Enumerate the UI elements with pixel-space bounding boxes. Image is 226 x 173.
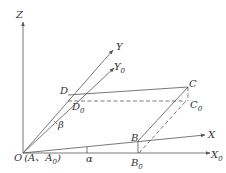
y-axis-label: Y: [116, 41, 124, 52]
point-c0-label: C0: [190, 99, 203, 113]
point-c-label: C: [189, 78, 197, 89]
point-b-label: B: [130, 132, 138, 143]
point-b0-label: B0: [130, 157, 143, 171]
x-axis: [23, 135, 205, 153]
origin-label: O(A、A0): [14, 152, 61, 166]
z-axis-label: Z: [15, 9, 24, 20]
point-d-label: D: [59, 85, 68, 96]
x-axis-label: X: [207, 129, 216, 140]
y0-axis: [23, 68, 114, 153]
alpha-label: α: [86, 153, 93, 164]
point-d0-label: D0: [71, 101, 85, 115]
edge-bc: [138, 87, 188, 141]
beta-label: β: [57, 119, 64, 130]
y-axis: [23, 50, 113, 153]
edge-dc: [68, 87, 188, 95]
y0-axis-label: Y0: [114, 61, 126, 75]
x0-axis-label: X0: [210, 149, 223, 163]
coordinate-diagram: Z Y Y0 X X0 O(A、A0) D D0 C C0 B B0 α β: [0, 0, 226, 173]
edge-b0c0: [139, 101, 186, 153]
